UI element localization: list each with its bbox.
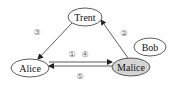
protocol-diagram: Trent Bob Alice Malice ③ ② ① ④ ⑤ <box>0 0 181 85</box>
step-label-4: ④ <box>81 50 88 59</box>
step-label-5: ⑤ <box>76 72 83 81</box>
node-malice: Malice <box>112 58 150 76</box>
step-label-2: ② <box>120 29 127 38</box>
node-alice: Alice <box>11 59 49 77</box>
edge-trent-to-alice <box>38 23 72 59</box>
node-trent: Trent <box>68 8 102 26</box>
node-label: Trent <box>74 12 96 23</box>
node-bob: Bob <box>134 38 166 56</box>
edge-malice-to-trent <box>101 20 128 58</box>
step-label-1: ① <box>68 50 75 59</box>
node-label: Bob <box>142 42 159 53</box>
node-label: Malice <box>117 62 145 73</box>
step-label-3: ③ <box>33 28 40 37</box>
node-label: Alice <box>19 63 41 74</box>
